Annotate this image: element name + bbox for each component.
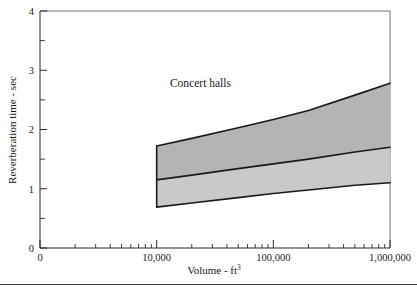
bottom-divider-rule	[0, 284, 417, 285]
x-axis-ticks	[40, 240, 390, 248]
y-axis-ticks	[40, 11, 47, 248]
reverberation-time-chart: 010,000100,0001,000,000 01234 Concert ha…	[0, 0, 417, 292]
y-tick-label: 0	[29, 243, 34, 254]
annotation-concert-halls: Concert halls	[170, 77, 232, 89]
x-axis-title: Volume - ft3	[187, 263, 241, 276]
x-tick-label: 100,000	[256, 252, 290, 263]
y-axis-title: Reverberation time - sec	[6, 76, 18, 184]
shaded-bands	[157, 83, 390, 207]
figure-container: 010,000100,0001,000,000 01234 Concert ha…	[0, 0, 417, 292]
x-tick-label: 1,000,000	[369, 252, 411, 263]
y-tick-label: 4	[29, 6, 35, 17]
y-tick-label: 3	[29, 65, 34, 76]
chart-annotations: Concert halls	[170, 77, 232, 89]
y-axis-tick-labels: 01234	[29, 6, 35, 254]
y-tick-label: 1	[29, 184, 34, 195]
x-tick-label: 10,000	[142, 252, 171, 263]
y-tick-label: 2	[29, 124, 34, 135]
x-tick-label: 0	[37, 252, 42, 263]
x-axis-tick-labels: 010,000100,0001,000,000	[37, 252, 411, 263]
